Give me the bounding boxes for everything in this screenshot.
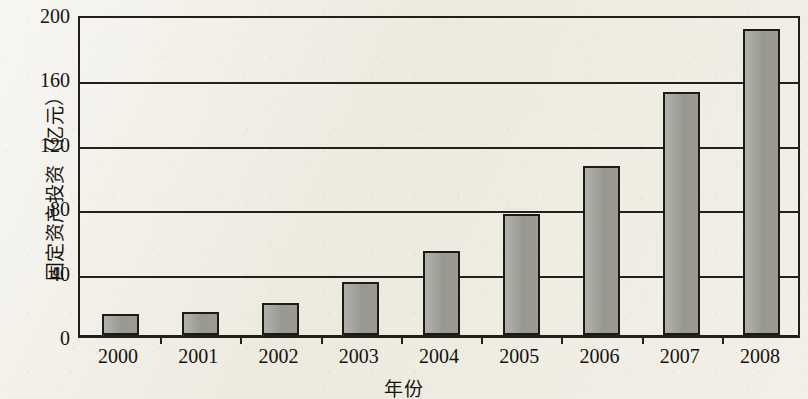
x-axis-tick-mark bbox=[722, 336, 724, 344]
plot-area bbox=[78, 16, 800, 338]
chart-figure: 固定资产投资（亿元） 04080120160200 20002001200220… bbox=[0, 0, 808, 399]
y-axis-tick-label: 200 bbox=[18, 6, 70, 26]
bar bbox=[503, 214, 540, 335]
bar bbox=[182, 312, 219, 335]
bar bbox=[102, 314, 139, 335]
y-axis-tick-label: 0 bbox=[18, 328, 70, 348]
x-axis-tick-mark bbox=[561, 336, 563, 344]
bar bbox=[583, 166, 620, 335]
y-axis-tick-labels: 04080120160200 bbox=[18, 0, 70, 399]
x-axis-tick-mark bbox=[401, 336, 403, 344]
x-axis-tick-label: 2007 bbox=[660, 346, 700, 366]
x-axis-tick-mark bbox=[642, 336, 644, 344]
x-axis-tick-labels: 200020012002200320042005200620072008 bbox=[78, 346, 800, 376]
bar bbox=[342, 282, 379, 335]
bar bbox=[262, 303, 299, 335]
bar bbox=[743, 29, 780, 335]
bar bbox=[423, 251, 460, 335]
y-axis-tick-label: 40 bbox=[18, 264, 70, 284]
bar-series bbox=[80, 18, 798, 335]
x-axis-tick-mark bbox=[481, 336, 483, 344]
x-axis-tick-mark bbox=[160, 336, 162, 344]
x-axis-title: 年份 bbox=[0, 374, 808, 399]
x-axis-tick-label: 2003 bbox=[339, 346, 379, 366]
y-axis-tick-label: 80 bbox=[18, 199, 70, 219]
y-axis-tick-label: 160 bbox=[18, 70, 70, 90]
x-axis-tick-label: 2006 bbox=[579, 346, 619, 366]
x-axis-tick-label: 2004 bbox=[419, 346, 459, 366]
x-axis-tick-label: 2002 bbox=[259, 346, 299, 366]
x-axis-tick-mark bbox=[240, 336, 242, 344]
x-axis-tick-label: 2000 bbox=[98, 346, 138, 366]
y-axis-tick-label: 120 bbox=[18, 135, 70, 155]
x-axis-tick-label: 2005 bbox=[499, 346, 539, 366]
x-axis-tick-mark bbox=[321, 336, 323, 344]
x-axis-tick-label: 2001 bbox=[178, 346, 218, 366]
bar bbox=[663, 92, 700, 335]
x-axis-tick-label: 2008 bbox=[740, 346, 780, 366]
